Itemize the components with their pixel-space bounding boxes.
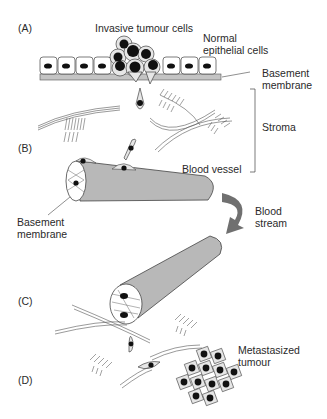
panel-label-b: (B) — [18, 142, 32, 154]
blood-stream-label: Blood stream — [255, 205, 287, 229]
blood-stream-arrow — [222, 193, 244, 234]
metastasis-diagram: (A) (B) (C) (D) Invasive tumour cells No… — [0, 0, 327, 419]
blood-vessel-c — [110, 236, 222, 324]
normal-epithelial-label: Normal epithelial cells — [203, 32, 268, 56]
panel-label-d: (D) — [18, 374, 33, 386]
stroma-bracket — [250, 89, 255, 172]
panel-label-a: (A) — [18, 22, 32, 34]
collagen-bundles — [64, 89, 230, 376]
panel-label-c: (C) — [18, 295, 33, 307]
basement-membrane-top-label: Basement membrane — [262, 67, 312, 91]
basement-membrane-left-label: Basement membrane — [17, 216, 67, 240]
invasive-tumour-label: Invasive tumour cells — [95, 22, 193, 34]
migrating-cells — [124, 88, 160, 369]
blood-vessel-label: Blood vessel — [182, 163, 242, 175]
stroma-label: Stroma — [262, 121, 296, 133]
metastasized-tumour-label: Metastasized tumour — [238, 344, 300, 368]
